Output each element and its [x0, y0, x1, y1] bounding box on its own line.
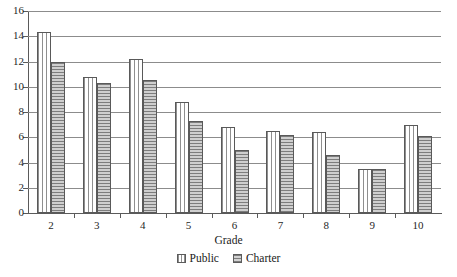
bar-public-grade-6 [221, 127, 235, 213]
legend-label: Public [190, 252, 219, 265]
gridline [28, 11, 441, 12]
legend-swatch-charter-icon [233, 254, 242, 263]
y-axis-tick-label: 16 [2, 5, 24, 16]
x-axis-tick-label: 7 [268, 219, 292, 231]
x-axis-tick-label: 4 [131, 219, 155, 231]
x-axis-tick [120, 214, 121, 218]
x-axis-line [28, 213, 442, 214]
x-axis-tick-label: 9 [360, 219, 384, 231]
bar-public-grade-4 [129, 59, 143, 213]
x-axis-tick [349, 214, 350, 218]
y-axis-tick-label: 14 [2, 30, 24, 41]
bar-charter-grade-10 [418, 136, 432, 213]
x-axis-tick-label: 6 [223, 219, 247, 231]
gridline [28, 62, 441, 63]
x-axis-tick-label: 2 [39, 219, 63, 231]
bar-charter-grade-9 [372, 169, 386, 213]
bar-public-grade-3 [83, 77, 97, 213]
x-axis-tick [303, 214, 304, 218]
x-axis-tick-label: 3 [85, 219, 109, 231]
bar-public-grade-5 [175, 102, 189, 213]
x-axis-tick [395, 214, 396, 218]
bar-charter-grade-3 [97, 83, 111, 213]
y-axis-tick-label: 12 [2, 56, 24, 67]
y-axis-tick-label: 6 [2, 131, 24, 142]
bar-charter-grade-7 [280, 135, 294, 213]
bar-public-grade-8 [312, 132, 326, 213]
bar-charter-grade-5 [189, 121, 203, 213]
x-axis-tick-label: 8 [314, 219, 338, 231]
y-axis-tick-label: 4 [2, 157, 24, 168]
legend-label: Charter [246, 252, 280, 265]
x-axis-title: Grade [0, 234, 457, 247]
x-axis-tick [212, 214, 213, 218]
x-axis-tick [257, 214, 258, 218]
y-axis-tick-label: 10 [2, 81, 24, 92]
bar-chart: 0246810121416 2345678910 Grade PublicCha… [0, 0, 457, 277]
x-axis-tick [74, 214, 75, 218]
chart-legend: PublicCharter [0, 252, 457, 265]
y-axis-tick-label: 8 [2, 106, 24, 117]
y-axis-tick-label: 0 [2, 207, 24, 218]
legend-entry-public: Public [177, 252, 219, 265]
bar-public-grade-2 [37, 32, 51, 213]
legend-entry-charter: Charter [233, 252, 280, 265]
bar-public-grade-9 [358, 169, 372, 213]
bar-public-grade-7 [266, 131, 280, 213]
bar-public-grade-10 [404, 125, 418, 213]
bar-charter-grade-2 [51, 62, 65, 214]
y-axis-tick-label: 2 [2, 182, 24, 193]
bar-charter-grade-6 [235, 150, 249, 213]
x-axis-tick-label: 10 [406, 219, 430, 231]
x-axis-tick [166, 214, 167, 218]
bar-charter-grade-8 [326, 155, 340, 213]
legend-swatch-public-icon [177, 254, 186, 263]
plot-area [28, 11, 441, 213]
bar-charter-grade-4 [143, 80, 157, 213]
x-axis-tick-label: 5 [177, 219, 201, 231]
gridline [28, 36, 441, 37]
